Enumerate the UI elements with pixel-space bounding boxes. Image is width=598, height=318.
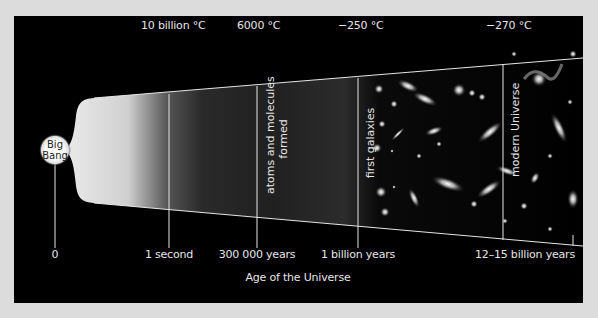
first-galaxies-label: first galaxies: [364, 103, 377, 183]
temp-10-billion: 10 billion °C: [141, 19, 205, 32]
temp-minus-270: −270 °C: [486, 19, 532, 32]
temp-minus-250: −250 °C: [338, 19, 384, 32]
age-1-billion-years: 1 billion years: [321, 248, 395, 261]
big-bang-line2: Bang: [40, 150, 70, 161]
age-300000-years: 300 000 years: [219, 248, 296, 261]
universe-timeline-diagram: Big Bang 10 billion °C 6000 °C −250 °C −…: [14, 16, 583, 303]
atoms-line2: formed: [277, 84, 290, 194]
axis-title: Age of the Universe: [246, 271, 351, 284]
big-bang-label: Big Bang: [40, 139, 70, 161]
atoms-line1: atoms and molecules: [264, 84, 277, 194]
big-bang-line1: Big: [40, 139, 70, 150]
age-1-second: 1 second: [145, 248, 193, 261]
atoms-molecules-label: atoms and molecules formed: [264, 84, 290, 194]
modern-universe-label: modern Universe: [509, 87, 522, 177]
temp-6000: 6000 °C: [237, 19, 280, 32]
age-12-15-billion-years: 12–15 billion years: [475, 248, 575, 261]
age-0: 0: [52, 248, 59, 261]
